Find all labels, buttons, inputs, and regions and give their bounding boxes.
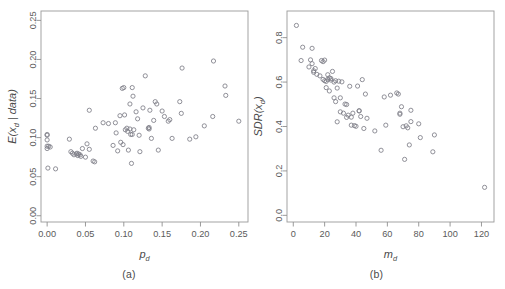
plot-frame — [287, 11, 494, 222]
data-point — [134, 110, 138, 114]
data-point — [294, 23, 298, 27]
scatter-plot-b: 0204060801001200.00.20.40.60.8mdSDR(xd) — [248, 0, 505, 289]
x-tick-label: 0.05 — [77, 229, 95, 239]
x-tick-label: 20 — [320, 229, 330, 239]
data-point — [409, 120, 413, 124]
data-point — [373, 129, 377, 133]
data-point — [482, 185, 486, 189]
data-point — [114, 131, 118, 135]
data-point — [188, 137, 192, 141]
data-points — [45, 59, 241, 171]
data-point — [148, 108, 152, 112]
x-axis-title: md — [384, 248, 398, 263]
x-tick-label: 0 — [291, 229, 296, 239]
data-point — [301, 45, 305, 49]
data-point — [403, 157, 407, 161]
data-point — [122, 113, 126, 117]
data-point — [152, 118, 156, 122]
scatter-plot-a: 0.000.050.100.150.200.250.000.050.100.15… — [0, 0, 258, 289]
x-tick-label: 80 — [414, 229, 424, 239]
data-point — [224, 93, 228, 97]
data-point — [365, 116, 369, 120]
data-point — [129, 161, 133, 165]
data-point — [202, 124, 206, 128]
y-tick-label: 0.0 — [274, 209, 284, 222]
plot-frame — [41, 11, 248, 222]
data-point — [349, 115, 353, 119]
data-point — [362, 126, 366, 130]
data-point — [143, 74, 147, 78]
data-point — [45, 138, 49, 142]
data-point — [399, 105, 403, 109]
data-point — [180, 66, 184, 70]
data-point — [46, 166, 50, 170]
data-point — [128, 102, 132, 106]
panel-a-caption: (a) — [0, 268, 258, 280]
y-tick-label: 0.8 — [274, 31, 284, 44]
y-tick-label: 0.25 — [28, 11, 38, 29]
figure-container: 0.000.050.100.150.200.250.000.050.100.15… — [0, 0, 505, 289]
data-point — [335, 86, 339, 90]
panel-b-caption: (b) — [248, 268, 505, 280]
data-point — [211, 114, 215, 118]
x-tick-label: 60 — [382, 229, 392, 239]
data-point — [113, 121, 117, 125]
data-point — [409, 108, 413, 112]
x-tick-label: 100 — [442, 229, 457, 239]
data-point — [126, 148, 130, 152]
data-point — [379, 148, 383, 152]
data-point — [162, 114, 166, 118]
x-tick-label: 0.20 — [192, 229, 210, 239]
data-point — [384, 123, 388, 127]
data-point — [334, 100, 338, 104]
panel-a: 0.000.050.100.150.200.250.000.050.100.15… — [0, 0, 258, 289]
data-point — [149, 136, 153, 140]
data-point — [223, 84, 227, 88]
data-point — [93, 126, 97, 130]
y-tick-label: 0.4 — [274, 120, 284, 133]
data-point — [118, 114, 122, 118]
data-point — [141, 106, 145, 110]
data-point — [338, 96, 342, 100]
data-point — [359, 114, 363, 118]
data-point — [138, 150, 142, 154]
data-point — [194, 135, 198, 139]
data-point — [160, 109, 164, 113]
y-tick-label: 0.15 — [28, 90, 38, 108]
data-point — [417, 122, 421, 126]
data-point — [299, 58, 303, 62]
x-tick-label: 0.00 — [38, 229, 56, 239]
data-point — [431, 150, 435, 154]
data-point — [101, 121, 105, 125]
x-tick-label: 0.15 — [153, 229, 171, 239]
data-point — [136, 117, 140, 121]
data-point — [178, 100, 182, 104]
x-tick-label: 120 — [474, 229, 489, 239]
data-point — [432, 133, 436, 137]
x-tick-label: 0.10 — [115, 229, 133, 239]
data-point — [348, 84, 352, 88]
panel-b: 0204060801001200.00.20.40.60.8mdSDR(xd) … — [248, 0, 505, 289]
y-axis-title: SDR(xd) — [252, 96, 267, 137]
data-point — [156, 148, 160, 152]
data-point — [407, 143, 411, 147]
data-point — [87, 108, 91, 112]
data-point — [67, 137, 71, 141]
data-point — [211, 59, 215, 63]
data-point — [85, 142, 89, 146]
data-point — [355, 84, 359, 88]
y-tick-label: 0.10 — [28, 129, 38, 147]
data-point — [179, 111, 183, 115]
data-point — [87, 147, 91, 151]
data-point — [310, 46, 314, 50]
data-point — [382, 95, 386, 99]
data-point — [363, 92, 367, 96]
data-point — [111, 143, 115, 147]
data-point — [360, 78, 364, 82]
data-point — [351, 111, 355, 115]
x-tick-label: 40 — [351, 229, 361, 239]
y-tick-label: 0.00 — [28, 207, 38, 225]
data-point — [388, 93, 392, 97]
data-point — [83, 155, 87, 159]
data-point — [418, 136, 422, 140]
